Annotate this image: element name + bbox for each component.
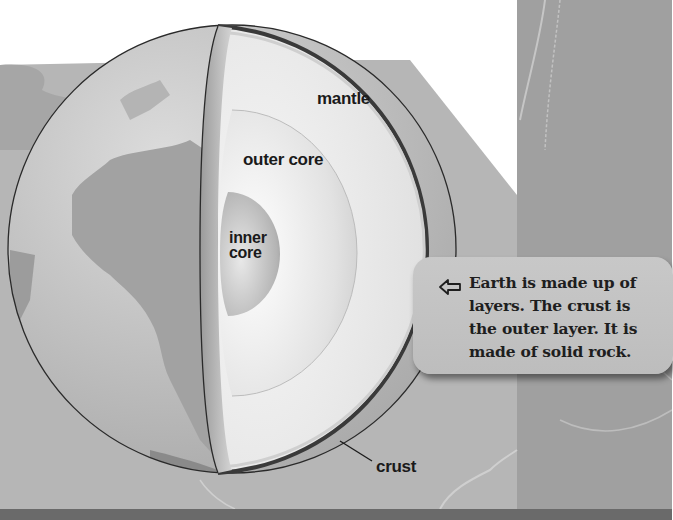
label-inner-core: inner core [229, 230, 269, 260]
callout-line: the outer layer. It is [469, 317, 669, 340]
label-crust: crust [376, 457, 416, 477]
callout-line: made of solid rock. [469, 340, 669, 363]
arrow-left-icon [439, 279, 461, 295]
label-inner-core-line1: inner [229, 230, 269, 245]
label-mantle: mantle [317, 89, 370, 109]
label-outer-core: outer core [243, 150, 323, 170]
callout-box: Earth is made up of layers. The crust is… [413, 257, 673, 374]
right-band [517, 0, 672, 509]
callout-line: layers. The crust is [469, 294, 669, 317]
callout-line: Earth is made up of [469, 271, 669, 294]
callout-text: Earth is made up of layers. The crust is… [469, 271, 669, 363]
label-inner-core-line2: core [229, 245, 269, 260]
bottom-strip [0, 509, 672, 520]
